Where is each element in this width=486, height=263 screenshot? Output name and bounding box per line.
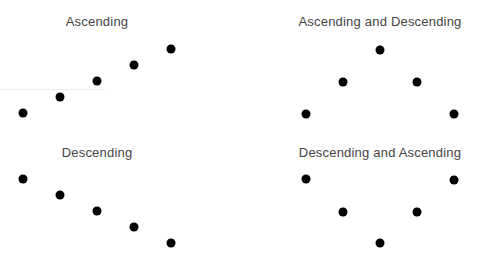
data-dot [302,175,311,184]
data-dot [302,110,311,119]
data-dot [167,45,176,54]
data-dot [167,239,176,248]
dot-plots [0,0,486,263]
data-dot [56,93,65,102]
data-dot [413,78,422,87]
data-dot [339,78,348,87]
data-dot [19,109,28,118]
data-dot [19,175,28,184]
data-dot [130,61,139,70]
data-dot [56,191,65,200]
data-dot [130,223,139,232]
panel-ascending-descending [302,46,459,119]
data-dot [413,208,422,217]
data-dot [450,176,459,185]
panel-descending [19,175,176,248]
panel-descending-ascending [302,175,459,248]
data-dot [93,77,102,86]
data-dot [376,46,385,55]
data-dot [93,207,102,216]
data-dot [450,110,459,119]
data-dot [339,208,348,217]
panel-ascending [19,45,176,118]
data-dot [376,239,385,248]
